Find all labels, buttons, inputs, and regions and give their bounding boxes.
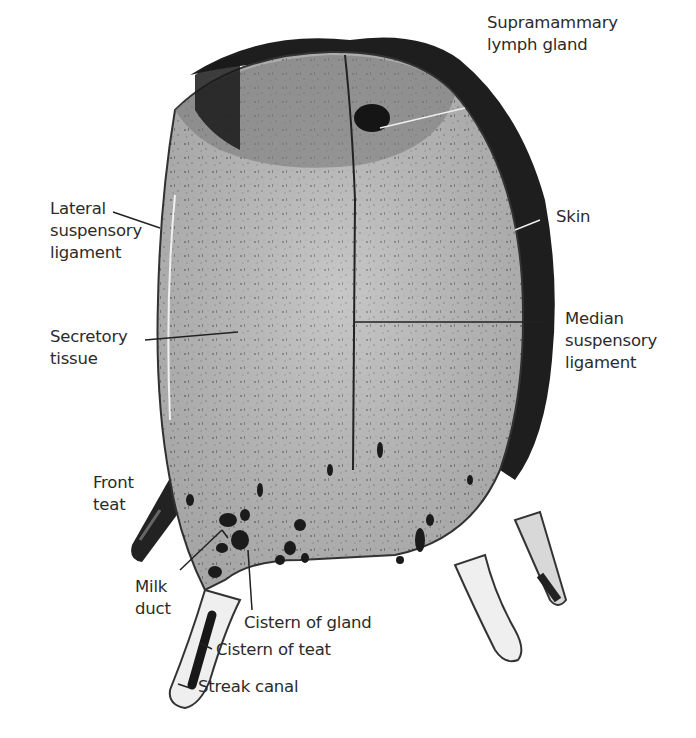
label-line: Supramammary: [487, 12, 618, 34]
rear-teat-right: [515, 512, 566, 605]
label-supramammary-lymph-gland: Supramammary lymph gland: [487, 12, 618, 56]
label-skin: Skin: [556, 206, 590, 228]
label-line: Cistern of gland: [244, 612, 372, 634]
label-cistern-of-teat: Cistern of teat: [216, 639, 331, 661]
label-line: Streak canal: [198, 676, 298, 698]
label-line: lymph gland: [487, 34, 618, 56]
label-line: suspensory: [565, 330, 657, 352]
label-cistern-of-gland: Cistern of gland: [244, 612, 372, 634]
label-line: Median: [565, 308, 657, 330]
label-line: Lateral: [50, 198, 142, 220]
label-line: Milk: [135, 576, 171, 598]
lymph-gland: [354, 104, 390, 132]
label-line: ligament: [565, 352, 657, 374]
label-milk-duct: Milk duct: [135, 576, 171, 620]
label-median-suspensory-ligament: Median suspensory ligament: [565, 308, 657, 374]
label-line: Front: [93, 472, 134, 494]
label-line: tissue: [50, 348, 128, 370]
label-secretory-tissue: Secretory tissue: [50, 326, 128, 370]
label-line: ligament: [50, 242, 142, 264]
label-line: Secretory: [50, 326, 128, 348]
label-lateral-suspensory-ligament: Lateral suspensory ligament: [50, 198, 142, 264]
label-line: teat: [93, 494, 134, 516]
label-line: Skin: [556, 206, 590, 228]
label-line: duct: [135, 598, 171, 620]
front-teat-right: [455, 555, 521, 661]
label-line: Cistern of teat: [216, 639, 331, 661]
label-line: suspensory: [50, 220, 142, 242]
label-streak-canal: Streak canal: [198, 676, 298, 698]
label-front-teat: Front teat: [93, 472, 134, 516]
